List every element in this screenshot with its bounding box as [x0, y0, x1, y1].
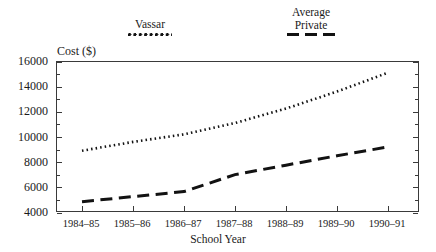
legend-entry-vassar: Vassar	[112, 18, 188, 37]
series-layer	[57, 62, 420, 213]
x-axis-tick	[388, 206, 389, 211]
dotted-line-swatch-icon	[128, 33, 172, 37]
plot-inner	[57, 62, 418, 211]
y-axis-tick-label: 12000	[0, 105, 48, 117]
y-axis-minor-tick-right	[415, 74, 418, 75]
y-axis-major-tick	[57, 137, 62, 138]
y-axis-major-tick-right	[413, 187, 418, 188]
y-axis-tick-label: 10000	[0, 131, 48, 143]
x-axis-tick	[82, 206, 83, 211]
y-axis-minor-tick	[57, 74, 60, 75]
y-axis-minor-tick	[57, 175, 60, 176]
y-axis-tick-label: 14000	[0, 80, 48, 92]
x-axis-tick-label: 1987–88	[205, 218, 263, 230]
x-axis-tick-label: 1988–89	[256, 218, 314, 230]
y-axis-major-tick	[57, 112, 62, 113]
x-axis-tick-label: 1986–87	[154, 218, 212, 230]
x-axis-tick-label: 1989–90	[307, 218, 365, 230]
y-axis-minor-tick-right	[415, 200, 418, 201]
y-axis-major-tick-right	[413, 62, 418, 63]
y-axis-minor-tick-right	[415, 150, 418, 151]
y-axis-major-tick	[57, 213, 62, 214]
plot-area	[56, 61, 419, 212]
y-axis-major-tick	[57, 62, 62, 63]
x-axis-tick	[337, 206, 338, 211]
y-axis-major-tick-right	[413, 87, 418, 88]
x-axis-title: School Year	[0, 233, 436, 245]
x-axis-tick-label: 1984–85	[52, 218, 110, 230]
series-line-average-private	[82, 147, 388, 202]
y-axis-tick-label: 8000	[0, 156, 48, 168]
y-axis-tick-label: 6000	[0, 181, 48, 193]
y-axis-major-tick-right	[413, 213, 418, 214]
y-axis-major-tick	[57, 187, 62, 188]
legend-entry-average-private: Average Private	[268, 6, 354, 36]
x-axis-tick	[235, 206, 236, 211]
y-axis-title: Cost ($)	[57, 44, 96, 58]
series-line-vassar	[82, 73, 388, 151]
y-axis-major-tick-right	[413, 162, 418, 163]
cost-comparison-line-chart: Vassar Average Private Cost ($) 16000140…	[0, 0, 436, 252]
y-axis-minor-tick-right	[415, 124, 418, 125]
x-axis-tick	[133, 206, 134, 211]
y-axis-tick-label: 4000	[0, 206, 48, 218]
y-axis-major-tick-right	[413, 137, 418, 138]
dashed-line-swatch-icon	[287, 33, 335, 36]
y-axis-major-tick-right	[413, 112, 418, 113]
legend-label-average-private: Average Private	[268, 6, 354, 31]
y-axis-minor-tick	[57, 99, 60, 100]
y-axis-minor-tick	[57, 150, 60, 151]
y-axis-minor-tick	[57, 200, 60, 201]
x-axis-tick-label: 1990–91	[358, 218, 416, 230]
y-axis-minor-tick	[57, 124, 60, 125]
y-axis-tick-label: 16000	[0, 55, 48, 67]
legend-label-vassar: Vassar	[112, 18, 188, 31]
y-axis-minor-tick-right	[415, 99, 418, 100]
x-axis-tick	[184, 206, 185, 211]
y-axis-minor-tick-right	[415, 175, 418, 176]
y-axis-major-tick	[57, 87, 62, 88]
x-axis-tick-label: 1985–86	[103, 218, 161, 230]
x-axis-tick	[286, 206, 287, 211]
y-axis-major-tick	[57, 162, 62, 163]
